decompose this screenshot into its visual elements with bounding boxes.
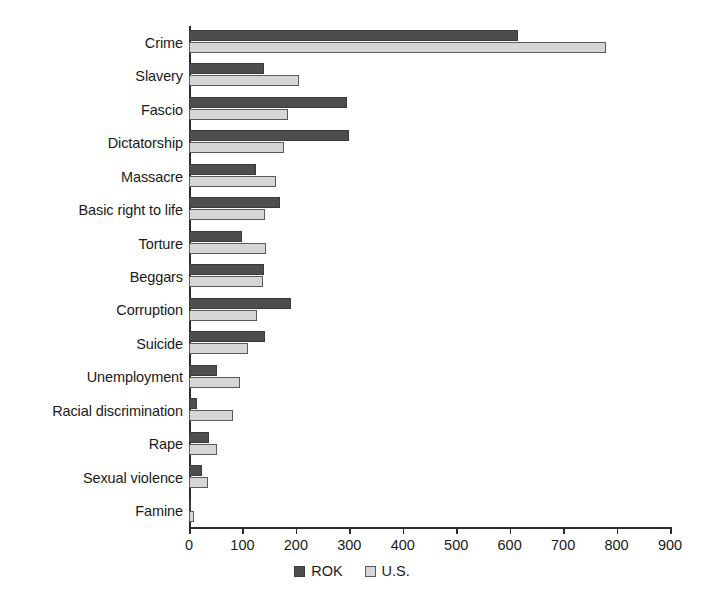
category-row: Crime: [189, 26, 670, 59]
category-label: Torture: [139, 236, 183, 252]
bar-us-suicide: [189, 343, 248, 354]
bar-rok-fascio: [189, 97, 347, 108]
category-label: Unemployment: [87, 369, 183, 385]
category-row: Sexual violence: [189, 461, 670, 494]
x-axis-tick: [296, 527, 298, 534]
bar-rok-slavery: [189, 63, 264, 74]
bar-us-fascio: [189, 109, 288, 120]
legend-swatch-rok-icon: [294, 566, 305, 577]
category-row: Dictatorship: [189, 126, 670, 159]
category-row: Suicide: [189, 327, 670, 360]
category-label: Corruption: [116, 302, 183, 318]
category-label: Famine: [135, 503, 183, 519]
category-label: Massacre: [121, 169, 183, 185]
category-row: Basic right to life: [189, 193, 670, 226]
bar-rok-unemployment: [189, 365, 217, 376]
x-axis-tick-label: 900: [658, 537, 682, 553]
x-axis-tick: [670, 527, 672, 534]
legend-swatch-us-icon: [365, 566, 376, 577]
category-row: Unemployment: [189, 361, 670, 394]
bar-rok-massacre: [189, 164, 256, 175]
bar-rok-rape: [189, 432, 209, 443]
category-label: Dictatorship: [108, 135, 183, 151]
bar-us-massacre: [189, 176, 276, 187]
bar-us-corruption: [189, 310, 257, 321]
bar-us-dictatorship: [189, 142, 284, 153]
bar-rok-suicide: [189, 331, 265, 342]
x-axis-tick-label: 600: [498, 537, 522, 553]
x-axis-tick: [403, 527, 405, 534]
category-label: Crime: [145, 35, 183, 51]
x-axis-tick-label: 100: [230, 537, 254, 553]
x-axis-tick: [563, 527, 565, 534]
category-label: Rape: [149, 436, 183, 452]
bar-us-rape: [189, 444, 217, 455]
category-label: Fascio: [141, 102, 183, 118]
category-row: Torture: [189, 227, 670, 260]
legend-entry-us[interactable]: U.S.: [365, 563, 410, 579]
category-label: Slavery: [135, 68, 183, 84]
category-row: Racial discrimination: [189, 394, 670, 427]
legend-label: U.S.: [382, 563, 410, 579]
bar-rok-racial-discrimination: [189, 398, 197, 409]
category-label: Racial discrimination: [52, 403, 183, 419]
category-row: Massacre: [189, 160, 670, 193]
x-axis-tick-label: 500: [444, 537, 468, 553]
category-row: Slavery: [189, 59, 670, 92]
bar-us-sexual-violence: [189, 477, 208, 488]
bar-us-slavery: [189, 75, 299, 86]
legend-label: ROK: [311, 563, 342, 579]
bar-us-beggars: [189, 276, 263, 287]
bar-us-crime: [189, 42, 606, 53]
bar-rok-crime: [189, 30, 518, 41]
chart-legend: ROKU.S.: [0, 563, 704, 579]
x-axis-tick-label: 300: [337, 537, 361, 553]
bar-rok-beggars: [189, 264, 264, 275]
bar-rok-basic-right-to-life: [189, 197, 280, 208]
bar-rok-corruption: [189, 298, 291, 309]
category-row: Beggars: [189, 260, 670, 293]
x-axis-tick: [189, 527, 191, 534]
category-label: Sexual violence: [83, 470, 183, 486]
bar-us-torture: [189, 243, 266, 254]
bar-rok-famine: [189, 499, 191, 510]
category-row: Rape: [189, 428, 670, 461]
x-axis-tick: [617, 527, 619, 534]
x-axis-tick: [349, 527, 351, 534]
category-label: Basic right to life: [79, 202, 183, 218]
bar-rok-dictatorship: [189, 130, 349, 141]
bar-us-basic-right-to-life: [189, 209, 265, 220]
x-axis-tick: [456, 527, 458, 534]
x-axis-tick-label: 400: [391, 537, 415, 553]
category-label: Suicide: [136, 336, 183, 352]
x-axis-tick: [510, 527, 512, 534]
bar-us-racial-discrimination: [189, 410, 233, 421]
bar-us-unemployment: [189, 377, 240, 388]
bar-rok-torture: [189, 231, 242, 242]
x-axis-tick: [242, 527, 244, 534]
x-axis-tick-label: 0: [185, 537, 193, 553]
plot-area: CrimeSlaveryFascioDictatorshipMassacreBa…: [189, 26, 670, 528]
bar-rok-sexual-violence: [189, 465, 202, 476]
legend-entry-rok[interactable]: ROK: [294, 563, 342, 579]
category-row: Fascio: [189, 93, 670, 126]
bar-chart: CrimeSlaveryFascioDictatorshipMassacreBa…: [0, 0, 704, 610]
bar-us-famine: [189, 511, 194, 522]
x-axis-tick-label: 200: [284, 537, 308, 553]
category-row: Corruption: [189, 294, 670, 327]
x-axis-tick-label: 800: [604, 537, 628, 553]
category-row: Famine: [189, 495, 670, 528]
x-axis-tick-label: 700: [551, 537, 575, 553]
category-label: Beggars: [130, 269, 183, 285]
